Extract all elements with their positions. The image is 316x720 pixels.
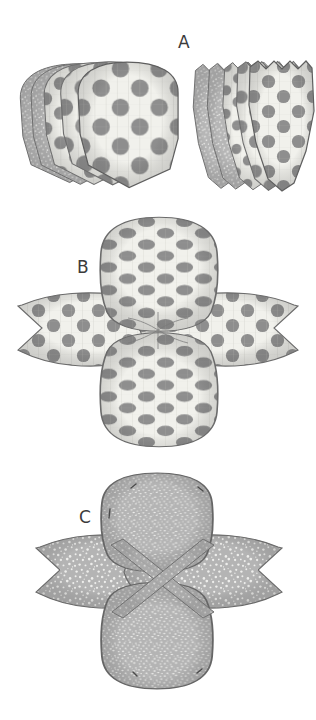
step-label-a: A bbox=[178, 32, 190, 52]
step-b-illustration bbox=[18, 217, 298, 447]
step-c-illustration bbox=[36, 473, 282, 689]
step-label-b: B bbox=[77, 257, 89, 277]
step-a-right-stack bbox=[190, 61, 314, 191]
step-b-bottom-petal bbox=[100, 333, 218, 447]
diagram-canvas: A B C bbox=[0, 0, 316, 720]
step-a-left-stack bbox=[20, 60, 178, 187]
step-a-illustration bbox=[20, 60, 314, 191]
step-b-top-petal bbox=[100, 217, 218, 331]
step-label-c: C bbox=[79, 507, 91, 527]
